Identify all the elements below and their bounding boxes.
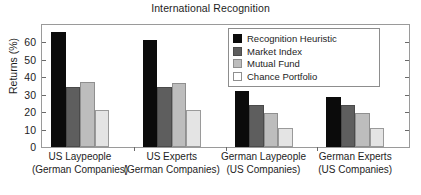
bar — [186, 110, 201, 147]
bar — [370, 128, 385, 147]
chart-legend: Recognition Heuristic Market Index Mutua… — [228, 28, 380, 87]
group-label-line1: US Experts — [146, 151, 197, 162]
y-axis-tick-label: 30 — [10, 89, 36, 100]
chart-container: International Recognition Returns (%) 01… — [0, 0, 421, 195]
y-axis-tick-label: 50 — [10, 55, 36, 66]
y-axis-tick-mark-right — [405, 112, 409, 113]
y-axis-tick-mark-right — [405, 77, 409, 78]
legend-swatch-icon — [233, 72, 242, 81]
bar — [172, 83, 187, 147]
legend-swatch-icon — [233, 34, 242, 43]
legend-label: Mutual Fund — [247, 58, 300, 69]
y-axis-tick-mark-right — [405, 130, 409, 131]
x-axis-group-label: German Experts(US Companies) — [295, 151, 415, 176]
bar — [51, 32, 66, 147]
group-label-line1: German Experts — [319, 151, 392, 162]
y-axis-tick-label: 40 — [10, 72, 36, 83]
y-axis-tick-mark — [42, 95, 46, 96]
legend-label: Chance Portfolio — [247, 71, 317, 82]
legend-item: Chance Portfolio — [233, 70, 375, 82]
legend-swatch-icon — [233, 59, 242, 68]
bar — [66, 87, 81, 147]
y-axis-tick-mark-right — [405, 42, 409, 43]
y-axis-tick-mark — [42, 77, 46, 78]
bar — [235, 91, 250, 147]
bar — [80, 82, 95, 147]
legend-item: Market Index — [233, 45, 375, 57]
bar — [326, 97, 341, 147]
y-axis-tick-label: 10 — [10, 124, 36, 135]
y-axis-tick-mark — [42, 130, 46, 131]
legend-label: Recognition Heuristic — [247, 33, 337, 44]
bar — [355, 113, 370, 147]
y-axis-tick-mark — [42, 112, 46, 113]
bar — [249, 105, 264, 147]
chart-title: International Recognition — [0, 2, 421, 14]
group-label-line1: US Laypeople — [49, 151, 112, 162]
y-axis-tick-label: 20 — [10, 107, 36, 118]
bar — [95, 110, 110, 147]
y-axis-tick-mark — [42, 60, 46, 61]
group-label-line2: (US Companies) — [295, 164, 415, 177]
bar — [341, 105, 356, 147]
legend-swatch-icon — [233, 47, 242, 56]
bar — [264, 113, 279, 147]
bar — [157, 87, 172, 147]
group-label-line1: German Laypeople — [221, 151, 306, 162]
y-axis-tick-mark — [42, 42, 46, 43]
legend-item: Recognition Heuristic — [233, 33, 375, 45]
y-axis-tick-mark-right — [405, 95, 409, 96]
y-axis-tick-label: 60 — [10, 37, 36, 48]
legend-label: Market Index — [247, 46, 302, 57]
legend-item: Mutual Fund — [233, 58, 375, 70]
bar — [278, 128, 293, 147]
y-axis-tick-mark-right — [405, 60, 409, 61]
bar — [143, 40, 158, 147]
